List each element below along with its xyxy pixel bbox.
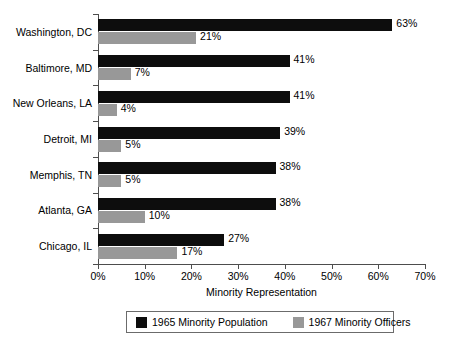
y-axis-tick <box>93 264 98 265</box>
bar-officers <box>98 211 145 223</box>
bar-row: 38% <box>98 198 425 210</box>
bar-population <box>98 198 276 210</box>
legend-label-officers: 1967 Minority Officers <box>309 316 411 328</box>
bar-group: 41%7% <box>98 55 425 80</box>
bar-value-label: 41% <box>294 89 315 101</box>
bar-row: 63% <box>98 19 425 31</box>
y-axis-tick <box>93 228 98 229</box>
bar-value-label: 5% <box>125 138 140 150</box>
x-axis-tick <box>145 264 146 269</box>
y-axis-tick <box>93 14 98 15</box>
bar-value-label: 7% <box>135 66 150 78</box>
bar-row: 5% <box>98 175 425 187</box>
bar-officers <box>98 32 196 44</box>
bar-row: 7% <box>98 68 425 80</box>
legend-label-population: 1965 Minority Population <box>152 316 268 328</box>
bar-value-label: 5% <box>125 173 140 185</box>
bar-officers <box>98 104 117 116</box>
bar-row: 17% <box>98 247 425 259</box>
bar-row: 39% <box>98 127 425 139</box>
x-axis-tick <box>332 264 333 269</box>
x-axis-tick-label: 50% <box>312 270 352 283</box>
legend-swatch-population-icon <box>136 317 147 328</box>
bar-value-label: 21% <box>200 30 221 42</box>
legend-item-population: 1965 Minority Population <box>136 316 268 328</box>
bar-value-label: 4% <box>121 102 136 114</box>
bar-officers <box>98 140 121 152</box>
bar-row: 5% <box>98 140 425 152</box>
chart-legend: 1965 Minority Population 1967 Minority O… <box>126 311 394 333</box>
bar-group: 27%17% <box>98 234 425 259</box>
x-axis-title: Minority Representation <box>98 286 425 298</box>
x-axis-tick-label: 40% <box>265 270 305 283</box>
bar-population <box>98 55 290 67</box>
bar-value-label: 38% <box>280 160 301 172</box>
bar-officers <box>98 175 121 187</box>
bar-value-label: 38% <box>280 196 301 208</box>
bar-group: 39%5% <box>98 127 425 152</box>
y-axis-tick <box>93 85 98 86</box>
legend-item-officers: 1967 Minority Officers <box>293 316 411 328</box>
bar-group: 41%4% <box>98 91 425 116</box>
x-axis-tick <box>378 264 379 269</box>
x-axis-tick-label: 60% <box>358 270 398 283</box>
bar-group: 38%5% <box>98 162 425 187</box>
y-axis-tick <box>93 121 98 122</box>
bar-group: 63%21% <box>98 19 425 44</box>
bar-chart: Washington, DCBaltimore, MDNew Orleans, … <box>0 0 449 354</box>
bar-value-label: 27% <box>228 232 249 244</box>
category-label: Atlanta, GA <box>2 204 92 216</box>
bar-row: 4% <box>98 104 425 116</box>
category-label: Baltimore, MD <box>2 62 92 74</box>
bar-population <box>98 19 392 31</box>
x-axis-tick <box>425 264 426 269</box>
bar-officers <box>98 247 177 259</box>
plot-area: 63%21%41%7%41%4%39%5%38%5%38%10%27%17% <box>98 14 425 264</box>
bar-value-label: 17% <box>181 245 202 257</box>
x-axis-tick <box>285 264 286 269</box>
x-axis-tick <box>238 264 239 269</box>
y-axis-tick <box>93 193 98 194</box>
x-axis-line <box>98 264 425 265</box>
bar-row: 41% <box>98 91 425 103</box>
y-axis-category-labels: Washington, DCBaltimore, MDNew Orleans, … <box>0 14 92 264</box>
y-axis-tick <box>93 50 98 51</box>
x-axis-tick <box>191 264 192 269</box>
legend-swatch-officers-icon <box>293 317 304 328</box>
bar-row: 21% <box>98 32 425 44</box>
bar-group: 38%10% <box>98 198 425 223</box>
x-axis-tick-label: 10% <box>125 270 165 283</box>
x-axis-tick-label: 30% <box>218 270 258 283</box>
bar-row: 10% <box>98 211 425 223</box>
category-label: New Orleans, LA <box>2 97 92 109</box>
category-label: Washington, DC <box>2 26 92 38</box>
x-axis-tick <box>98 264 99 269</box>
bar-value-label: 39% <box>284 125 305 137</box>
bar-population <box>98 234 224 246</box>
x-axis-tick-label: 20% <box>171 270 211 283</box>
bar-value-label: 10% <box>149 209 170 221</box>
bar-row: 27% <box>98 234 425 246</box>
bar-value-label: 63% <box>396 17 417 29</box>
x-axis-tick-label: 0% <box>78 270 118 283</box>
bar-officers <box>98 68 131 80</box>
category-label: Memphis, TN <box>2 169 92 181</box>
category-label: Chicago, IL <box>2 240 92 252</box>
y-axis-tick <box>93 157 98 158</box>
x-axis-tick-label: 70% <box>405 270 445 283</box>
bar-row: 38% <box>98 162 425 174</box>
category-label: Detroit, MI <box>2 133 92 145</box>
bar-value-label: 41% <box>294 53 315 65</box>
